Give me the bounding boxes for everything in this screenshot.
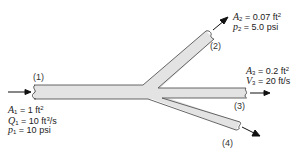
section-label-4: (4): [222, 138, 233, 148]
exponent: 2: [286, 66, 289, 72]
section-label-3: (3): [234, 101, 245, 111]
area-value: = 0.07 ft: [245, 12, 278, 22]
subscript: 3: [252, 80, 255, 86]
flow-unit: /s: [50, 116, 57, 126]
section1-pressure: p1 = 10 psi: [8, 125, 51, 137]
exponent: 2: [40, 105, 43, 111]
pressure-value: = 10 psi: [19, 125, 51, 135]
section2-pressure: p2 = 5.0 psi: [233, 22, 278, 34]
section-label-2: (2): [210, 41, 221, 51]
subscript: 1: [13, 129, 16, 135]
subscript: 2: [238, 26, 241, 32]
section3-velocity: V3 = 20 ft/s: [246, 76, 290, 88]
section-label-1: (1): [33, 72, 44, 82]
pressure-value: = 5.0 psi: [244, 22, 278, 32]
area-value: = 0.2 ft: [258, 66, 286, 76]
velocity-value: = 20 ft/s: [258, 76, 290, 86]
exponent: 2: [278, 12, 281, 18]
pipe-branch-diagram: (1) (2) (3) (4) A1 = 1 ft2 Q1 = 10 ft3/s…: [0, 0, 304, 153]
